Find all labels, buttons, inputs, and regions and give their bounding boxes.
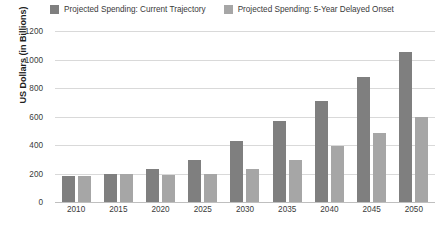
bar-group — [224, 31, 266, 202]
x-axis-tick-label: 2015 — [97, 205, 139, 215]
x-axis-tick-label: 2020 — [139, 205, 181, 215]
bar-series-2 — [289, 160, 302, 202]
legend-swatch-delayed-onset — [224, 5, 233, 14]
x-axis-tick-label: 2045 — [351, 205, 393, 215]
y-axis-tick-label: 800 — [3, 84, 43, 93]
bar-group — [351, 31, 393, 202]
bar-series-2 — [120, 174, 133, 203]
bar-group — [97, 31, 139, 202]
y-axis-tick-label: 1000 — [3, 55, 43, 64]
legend-label-current-trajectory: Projected Spending: Current Trajectory — [64, 5, 206, 14]
bar-series-1 — [188, 160, 201, 202]
bar-series-2 — [162, 175, 175, 202]
y-axis-tick-label: 200 — [3, 169, 43, 178]
legend-label-delayed-onset: Projected Spending: 5-Year Delayed Onset — [238, 5, 394, 14]
legend-swatch-current-trajectory — [50, 5, 59, 14]
plot-area: 020040060080010001200 — [55, 31, 435, 202]
axis-baseline — [55, 202, 435, 203]
bar-group — [55, 31, 97, 202]
bar-chart: Projected Spending: Current Trajectory P… — [0, 0, 444, 236]
bar-group — [139, 31, 181, 202]
bar-series-2 — [331, 146, 344, 202]
bar-series-1 — [399, 52, 412, 202]
bar-series-1 — [146, 169, 159, 202]
bar-series-1 — [104, 174, 117, 203]
bar-series-2 — [415, 117, 428, 203]
bar-series-1 — [315, 101, 328, 202]
bar-series-container — [55, 31, 435, 202]
y-axis-tick-label: 0 — [3, 198, 43, 207]
legend-entry-current-trajectory: Projected Spending: Current Trajectory — [50, 5, 206, 14]
bar-series-1 — [357, 77, 370, 202]
bar-series-2 — [373, 133, 386, 202]
chart-legend: Projected Spending: Current Trajectory P… — [0, 5, 444, 14]
x-axis-tick-label: 2025 — [182, 205, 224, 215]
x-axis-tick-label: 2010 — [55, 205, 97, 215]
bar-group — [393, 31, 435, 202]
x-axis-tick-label: 2050 — [393, 205, 435, 215]
bar-group — [266, 31, 308, 202]
x-axis-tick-label: 2030 — [224, 205, 266, 215]
x-axis-tick-label: 2035 — [266, 205, 308, 215]
legend-entry-delayed-onset: Projected Spending: 5-Year Delayed Onset — [224, 5, 394, 14]
x-axis-tick-label: 2040 — [308, 205, 350, 215]
bar-series-2 — [78, 176, 91, 202]
bar-series-2 — [204, 174, 217, 202]
y-axis-tick-label: 600 — [3, 112, 43, 121]
bar-group — [308, 31, 350, 202]
bar-series-1 — [62, 176, 75, 202]
bar-series-1 — [230, 141, 243, 202]
bar-series-1 — [273, 121, 286, 202]
bar-series-2 — [246, 169, 259, 202]
bar-group — [182, 31, 224, 202]
y-axis-tick-label: 1200 — [3, 27, 43, 36]
x-axis-ticks: 201020152020202520302035204020452050 — [55, 205, 435, 215]
y-axis-tick-label: 400 — [3, 141, 43, 150]
